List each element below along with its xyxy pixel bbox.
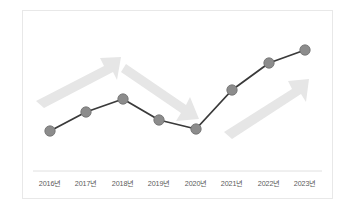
x-axis-tick-labels: 2016년 2017년 2018년 2019년 2020년 2021년 2022…: [0, 0, 355, 210]
x-tick-label: 2018년: [112, 178, 135, 188]
x-tick-label: 2022년: [258, 178, 281, 188]
x-tick-label: 2019년: [148, 178, 171, 188]
line-chart: 2016년 2017년 2018년 2019년 2020년 2021년 2022…: [0, 0, 355, 210]
x-tick-label: 2023년: [294, 178, 317, 188]
x-tick-label: 2016년: [39, 178, 62, 188]
x-tick-label: 2017년: [75, 178, 98, 188]
x-tick-label: 2021년: [221, 178, 244, 188]
x-tick-label: 2020년: [185, 178, 208, 188]
